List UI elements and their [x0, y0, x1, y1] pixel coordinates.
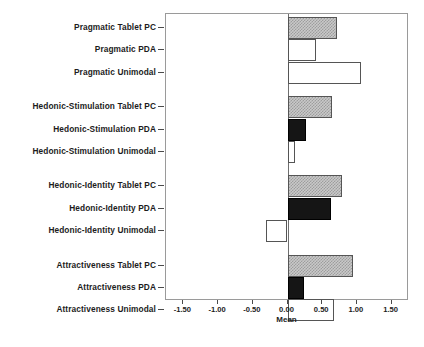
- x-axis-tick: [356, 300, 357, 304]
- category-tick: [158, 72, 164, 73]
- x-axis-tick: [321, 300, 322, 304]
- category-tick: [158, 151, 164, 152]
- bar-pragmatic-unimodal: [288, 62, 362, 84]
- bar-hedonic-stimulation-pda: [288, 119, 307, 141]
- category-label: Pragmatic Tablet PC: [74, 21, 156, 33]
- category-label: Hedonic-Stimulation Tablet PC: [32, 100, 156, 112]
- category-tick: [158, 27, 164, 28]
- bar-hedonic-identity-tablet-pc: [288, 175, 342, 197]
- category-axis: Pragmatic Tablet PCPragmatic PDAPragmati…: [0, 0, 165, 347]
- plot-area: [165, 13, 408, 300]
- x-axis-tick-label: 1.00: [349, 305, 364, 314]
- x-axis-tick: [287, 300, 288, 304]
- category-label: Pragmatic PDA: [95, 43, 156, 55]
- x-axis: Mean -1.50-1.00-0.500.000.501.001.50: [165, 300, 408, 346]
- category-label: Hedonic-Identity Unimodal: [48, 224, 156, 236]
- x-axis-title: Mean: [165, 315, 408, 324]
- category-tick: [158, 309, 164, 310]
- category-tick: [158, 265, 164, 266]
- category-tick: [158, 208, 164, 209]
- bar-chart: Pragmatic Tablet PCPragmatic PDAPragmati…: [0, 0, 424, 347]
- category-tick: [158, 287, 164, 288]
- category-tick: [158, 49, 164, 50]
- category-label: Attractiveness PDA: [77, 281, 156, 293]
- category-label: Hedonic-Identity PDA: [69, 202, 156, 214]
- x-axis-tick: [182, 300, 183, 304]
- category-label: Hedonic-Stimulation PDA: [53, 123, 156, 135]
- x-axis-tick-label: 0.50: [314, 305, 329, 314]
- bar-hedonic-stimulation-tablet-pc: [288, 96, 332, 118]
- x-axis-tick: [252, 300, 253, 304]
- bar-pragmatic-tablet-pc: [288, 17, 338, 39]
- bar-hedonic-identity-unimodal: [266, 220, 288, 242]
- x-axis-tick: [217, 300, 218, 304]
- category-tick: [158, 185, 164, 186]
- x-axis-tick-label: -0.50: [243, 305, 260, 314]
- category-label: Attractiveness Tablet PC: [56, 259, 156, 271]
- x-axis-tick: [391, 300, 392, 304]
- bar-pragmatic-pda: [288, 39, 316, 61]
- category-label: Hedonic-Identity Tablet PC: [48, 179, 156, 191]
- category-label: Pragmatic Unimodal: [74, 66, 156, 78]
- category-tick: [158, 129, 164, 130]
- x-axis-tick-label: 0.00: [279, 305, 294, 314]
- bar-hedonic-stimulation-unimodal: [288, 141, 296, 163]
- x-axis-tick-label: 1.50: [383, 305, 398, 314]
- category-tick: [158, 106, 164, 107]
- category-label: Attractiveness Unimodal: [56, 303, 156, 315]
- x-axis-tick-label: -1.50: [174, 305, 191, 314]
- category-label: Hedonic-Stimulation Unimodal: [32, 145, 156, 157]
- bar-attractiveness-pda: [288, 277, 305, 299]
- bar-attractiveness-tablet-pc: [288, 255, 354, 277]
- bar-hedonic-identity-pda: [288, 198, 331, 220]
- x-axis-tick-label: -1.00: [208, 305, 225, 314]
- category-tick: [158, 230, 164, 231]
